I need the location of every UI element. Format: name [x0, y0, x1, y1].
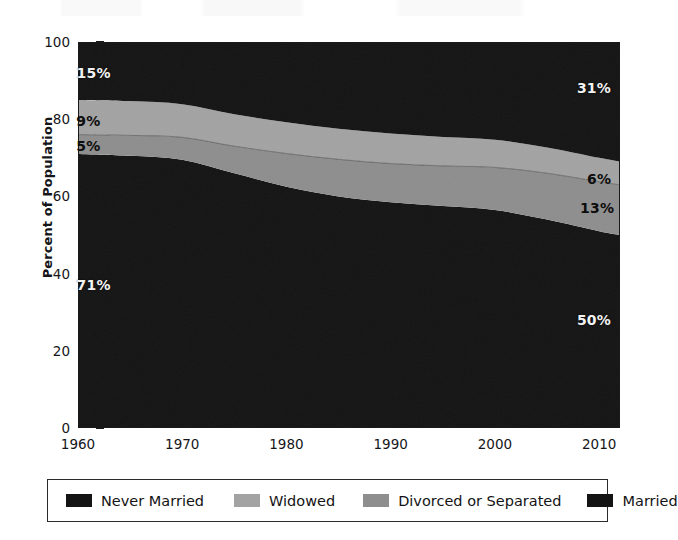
y-axis-ticks: 020406080100: [26, 0, 70, 540]
x-tick-label: 1960: [61, 436, 95, 452]
legend-item-label: Divorced or Separated: [398, 493, 561, 509]
x-tick-label: 2010: [582, 436, 616, 452]
y-tick-label: 40: [53, 266, 70, 282]
data-label-31pct: 31%: [577, 80, 611, 96]
data-label-13pct: 13%: [580, 200, 614, 216]
x-tick-label: 1990: [374, 436, 408, 452]
legend-swatch-icon: [234, 494, 260, 507]
legend-item-label: Widowed: [269, 493, 335, 509]
legend-item-label: Married: [622, 493, 677, 509]
y-tick-label: 60: [53, 188, 70, 204]
plot-area: 15%9%5%71%31%6%13%50%: [78, 42, 620, 428]
y-tick-label: 0: [61, 420, 70, 436]
legend-swatch-icon: [363, 494, 389, 507]
legend-item-never-married[interactable]: Never Married: [66, 493, 204, 509]
legend-swatch-icon: [66, 494, 92, 507]
legend-item-divorced-or-separated[interactable]: Divorced or Separated: [363, 493, 561, 509]
paper-grain: [78, 42, 620, 428]
y-tick-label: 100: [44, 34, 70, 50]
data-label-15pct: 15%: [77, 65, 111, 81]
data-label-50pct: 50%: [577, 312, 611, 328]
legend-swatch-icon: [587, 494, 613, 507]
y-tick-label: 80: [53, 111, 70, 127]
y-tick-label: 20: [53, 343, 70, 359]
data-label-71pct: 71%: [77, 277, 111, 293]
x-tick-label: 1980: [269, 436, 303, 452]
data-label-6pct: 6%: [587, 171, 611, 187]
data-label-9pct: 9%: [76, 113, 100, 129]
legend-item-widowed[interactable]: Widowed: [234, 493, 335, 509]
data-label-5pct: 5%: [76, 138, 100, 154]
scan-artifact: [0, 0, 655, 16]
x-tick-label: 1970: [165, 436, 199, 452]
legend-item-label: Never Married: [101, 493, 204, 509]
stacked-area-svg: [78, 42, 620, 428]
legend: Never MarriedWidowedDivorced or Separate…: [47, 479, 608, 522]
x-tick-label: 2000: [478, 436, 512, 452]
legend-item-married[interactable]: Married: [587, 493, 677, 509]
